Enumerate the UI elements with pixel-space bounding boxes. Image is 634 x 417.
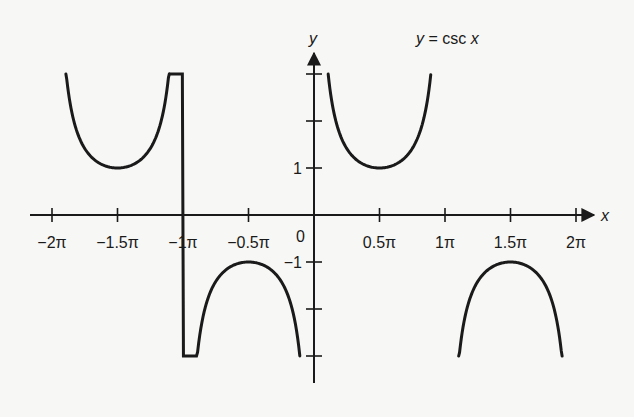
- chart-title: y = csc x: [415, 30, 480, 47]
- y-axis-label: y: [308, 30, 318, 47]
- x-tick-label: −1.5π: [96, 234, 139, 251]
- x-tick-label: 1π: [435, 234, 455, 251]
- csc-branch: [66, 74, 169, 168]
- x-tick-label: −0.5π: [227, 234, 270, 251]
- csc-branch: [328, 74, 431, 168]
- origin-label: 0: [296, 228, 305, 245]
- x-tick-label: 2π: [566, 234, 586, 251]
- x-tick-label: 1.5π: [494, 234, 527, 251]
- axes: [30, 53, 594, 383]
- y-tick-label: −1: [284, 254, 302, 271]
- x-tick-label: 0.5π: [363, 234, 396, 251]
- csc-branch: [459, 262, 562, 356]
- csc-chart: −2π−1.5π−1π−0.5π0.5π1π1.5π2π 1−1 x y 0 y…: [0, 0, 634, 417]
- x-tick-label: −2π: [37, 234, 66, 251]
- x-axis-label: x: [600, 207, 610, 224]
- y-tick-label: 1: [293, 160, 302, 177]
